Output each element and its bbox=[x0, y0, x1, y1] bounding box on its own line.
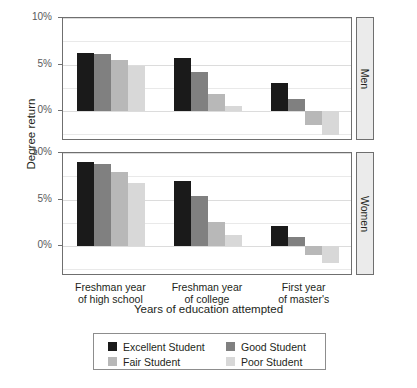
legend-label-fair-student: Fair Student bbox=[123, 356, 180, 368]
bar bbox=[174, 58, 191, 111]
degree-return-chart: Degree return 10%5%0%10%5%0% Men Women F… bbox=[0, 0, 417, 388]
x-category-label-line: First year bbox=[234, 281, 374, 293]
legend-swatch-fair-student bbox=[108, 357, 117, 366]
y-tick-label: 10% bbox=[0, 11, 52, 22]
bar bbox=[288, 237, 305, 246]
bar bbox=[271, 226, 288, 247]
bar bbox=[305, 246, 322, 255]
legend-label-excellent-student: Excellent Student bbox=[123, 341, 205, 353]
legend-row: Excellent Student Good Student bbox=[108, 339, 325, 354]
y-tick-label: 0% bbox=[0, 239, 52, 250]
bar bbox=[271, 83, 288, 111]
gridline bbox=[63, 269, 351, 270]
plot-area-men bbox=[63, 18, 351, 139]
bar bbox=[77, 162, 94, 246]
bar bbox=[225, 235, 242, 246]
y-tick-label: 0% bbox=[0, 104, 52, 115]
bar bbox=[77, 53, 94, 111]
bar bbox=[128, 183, 145, 246]
gridline bbox=[63, 153, 351, 154]
bar bbox=[94, 164, 111, 246]
legend-row: Fair Student Poor Student bbox=[108, 354, 325, 369]
legend-label-poor-student: Poor Student bbox=[241, 356, 302, 368]
legend-item-poor-student: Poor Student bbox=[226, 356, 302, 368]
bar bbox=[305, 111, 322, 125]
strip-label-women-text: Women bbox=[359, 196, 371, 232]
strip-label-men-text: Men bbox=[359, 68, 371, 88]
bar bbox=[208, 222, 225, 246]
bar bbox=[322, 246, 339, 263]
bar bbox=[174, 181, 191, 246]
legend-item-fair-student: Fair Student bbox=[108, 356, 226, 368]
legend-label-good-student: Good Student bbox=[241, 341, 306, 353]
strip-label-women: Women bbox=[356, 152, 374, 275]
y-axis-title: Degree return bbox=[25, 59, 37, 209]
bar bbox=[322, 111, 339, 135]
plot-area-women bbox=[63, 153, 351, 274]
y-tick-label: 5% bbox=[0, 58, 52, 69]
panel-men bbox=[62, 17, 352, 140]
gridline bbox=[63, 41, 351, 42]
bar bbox=[288, 99, 305, 111]
bar bbox=[225, 106, 242, 112]
legend-swatch-poor-student bbox=[226, 357, 235, 366]
gridline bbox=[63, 134, 351, 135]
legend: Excellent Student Good Student Fair Stud… bbox=[93, 333, 326, 370]
bar bbox=[128, 66, 145, 112]
legend-swatch-good-student bbox=[226, 342, 235, 351]
bar bbox=[111, 60, 128, 111]
x-axis-title: Years of education attempted bbox=[0, 303, 417, 315]
y-tick-label: 5% bbox=[0, 193, 52, 204]
bar bbox=[111, 172, 128, 247]
x-category-label: First yearof master's bbox=[234, 281, 374, 305]
strip-label-men: Men bbox=[356, 17, 374, 140]
panel-women bbox=[62, 152, 352, 275]
y-tick-label: 10% bbox=[0, 146, 52, 157]
bar bbox=[191, 72, 208, 111]
legend-item-good-student: Good Student bbox=[226, 341, 306, 353]
legend-swatch-excellent-student bbox=[108, 342, 117, 351]
bar bbox=[208, 94, 225, 111]
legend-item-excellent-student: Excellent Student bbox=[108, 341, 226, 353]
bar bbox=[94, 54, 111, 111]
bar bbox=[191, 196, 208, 246]
gridline bbox=[63, 18, 351, 19]
